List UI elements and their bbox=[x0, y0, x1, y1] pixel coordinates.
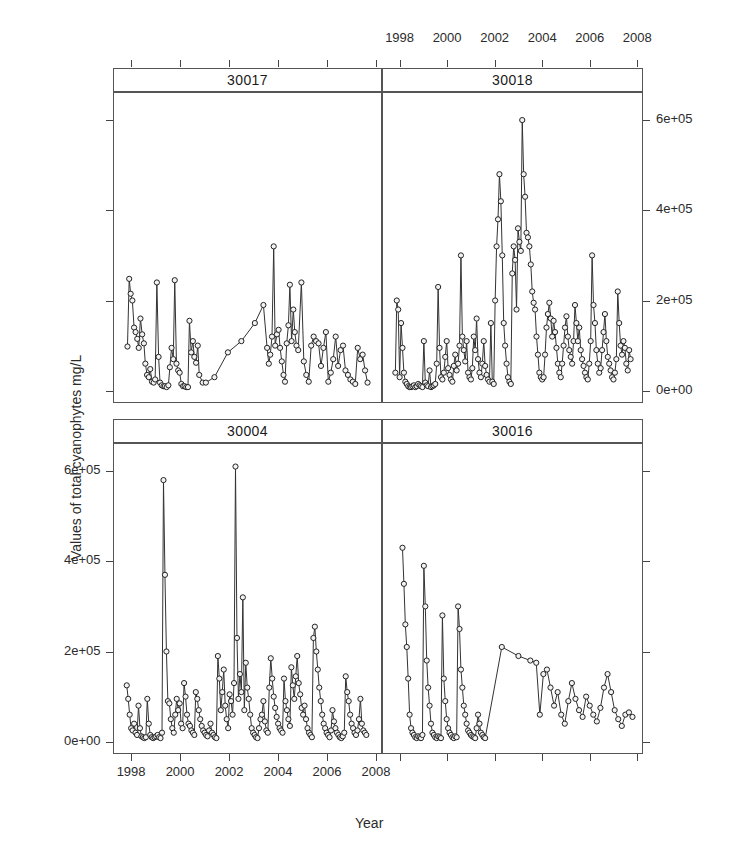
data-point bbox=[470, 366, 475, 371]
data-point bbox=[434, 361, 439, 366]
data-point bbox=[192, 354, 197, 359]
data-point bbox=[619, 723, 624, 728]
data-point bbox=[491, 381, 496, 386]
y-tick-left bbox=[106, 742, 113, 743]
data-point bbox=[314, 649, 319, 654]
data-point bbox=[343, 674, 348, 679]
data-point bbox=[483, 363, 488, 368]
data-point bbox=[495, 217, 500, 222]
data-point bbox=[180, 726, 185, 731]
data-point bbox=[554, 345, 559, 350]
data-point bbox=[522, 194, 527, 199]
x-tick-bottom bbox=[447, 754, 448, 761]
data-point bbox=[159, 730, 164, 735]
data-point bbox=[401, 581, 406, 586]
data-point bbox=[605, 671, 610, 676]
data-point bbox=[521, 172, 526, 177]
data-point bbox=[568, 354, 573, 359]
data-point bbox=[552, 329, 557, 334]
x-tick-label-bottom: 1998 bbox=[117, 764, 146, 779]
data-point bbox=[427, 368, 432, 373]
data-point bbox=[481, 339, 486, 344]
y-tick-left bbox=[106, 210, 113, 211]
data-point bbox=[455, 361, 460, 366]
y-tick-label-left: 0e+00 bbox=[64, 733, 101, 748]
data-point bbox=[171, 730, 176, 735]
y-tick-left bbox=[106, 471, 113, 472]
data-point bbox=[327, 735, 332, 740]
data-point bbox=[255, 736, 260, 741]
y-tick-label-right: 6e+05 bbox=[656, 111, 693, 126]
data-point bbox=[494, 244, 499, 249]
x-tick-bottom bbox=[278, 754, 279, 761]
data-point bbox=[228, 699, 233, 704]
data-point bbox=[463, 359, 468, 364]
data-point bbox=[281, 372, 286, 377]
x-tick-bottom bbox=[495, 754, 496, 761]
panel-30017 bbox=[113, 92, 382, 403]
x-tick-label-top: 1998 bbox=[385, 30, 414, 45]
data-point bbox=[187, 318, 192, 323]
data-point bbox=[242, 708, 247, 713]
data-point bbox=[243, 660, 248, 665]
data-point bbox=[174, 361, 179, 366]
x-tick-top bbox=[376, 60, 377, 67]
data-point bbox=[240, 595, 245, 600]
x-tick-label-bottom: 2000 bbox=[166, 764, 195, 779]
data-point bbox=[504, 361, 509, 366]
data-point bbox=[560, 361, 565, 366]
data-point bbox=[528, 658, 533, 663]
data-point bbox=[266, 361, 271, 366]
data-point bbox=[393, 370, 398, 375]
data-point bbox=[551, 318, 556, 323]
data-point bbox=[398, 320, 403, 325]
data-point bbox=[362, 368, 367, 373]
data-point bbox=[164, 649, 169, 654]
data-point bbox=[296, 348, 301, 353]
data-point bbox=[498, 199, 503, 204]
data-point bbox=[555, 690, 560, 695]
x-tick-bottom bbox=[131, 754, 132, 761]
data-point bbox=[590, 253, 595, 258]
data-point bbox=[270, 676, 275, 681]
data-point bbox=[224, 717, 229, 722]
data-point bbox=[437, 345, 442, 350]
data-point bbox=[518, 248, 523, 253]
data-point bbox=[401, 370, 406, 375]
data-point bbox=[473, 736, 478, 741]
data-point bbox=[396, 307, 401, 312]
x-tick-bottom bbox=[542, 754, 543, 761]
data-point bbox=[145, 696, 150, 701]
x-tick-label-bottom: 2006 bbox=[313, 764, 342, 779]
data-point bbox=[311, 635, 316, 640]
data-point bbox=[497, 172, 502, 177]
data-point bbox=[601, 329, 606, 334]
data-point bbox=[328, 370, 333, 375]
x-tick-bottom bbox=[590, 754, 591, 761]
data-point bbox=[604, 339, 609, 344]
data-point bbox=[444, 339, 449, 344]
data-point bbox=[303, 717, 308, 722]
data-point bbox=[440, 613, 445, 618]
series-line-30018 bbox=[395, 120, 630, 387]
data-point bbox=[318, 699, 323, 704]
x-tick-label-bottom: 2002 bbox=[215, 764, 244, 779]
data-point bbox=[183, 694, 188, 699]
data-point bbox=[558, 375, 563, 380]
data-point bbox=[400, 545, 405, 550]
data-point bbox=[471, 334, 476, 339]
data-point bbox=[616, 717, 621, 722]
data-point bbox=[446, 366, 451, 371]
data-point bbox=[587, 703, 592, 708]
data-point bbox=[436, 284, 441, 289]
data-point bbox=[301, 359, 306, 364]
data-point bbox=[252, 320, 257, 325]
data-point bbox=[569, 680, 574, 685]
data-point bbox=[358, 696, 363, 701]
data-point bbox=[205, 734, 210, 739]
data-point bbox=[453, 352, 458, 357]
data-point bbox=[237, 671, 242, 676]
data-point bbox=[317, 685, 322, 690]
data-point bbox=[457, 626, 462, 631]
data-point bbox=[293, 674, 298, 679]
